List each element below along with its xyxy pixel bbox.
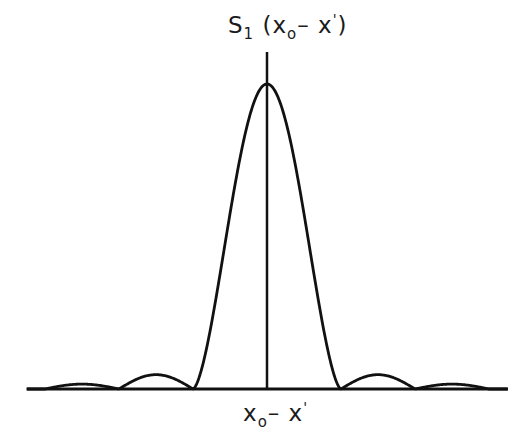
x-axis-label: xo– x' [243,400,308,426]
y-axis-label: S1 (xo– x') [228,12,348,38]
sinc-squared-plot [0,0,531,448]
figure: S1 (xo– x') xo– x' [0,0,531,448]
